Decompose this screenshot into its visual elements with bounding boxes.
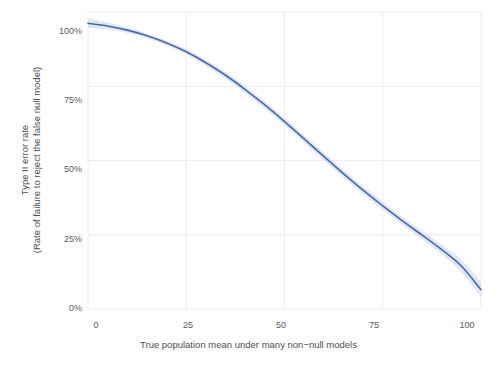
chart-container: Type II error rate (Rate of failure to r…	[0, 0, 497, 368]
plot-area	[0, 0, 497, 368]
gridlines	[88, 12, 481, 309]
